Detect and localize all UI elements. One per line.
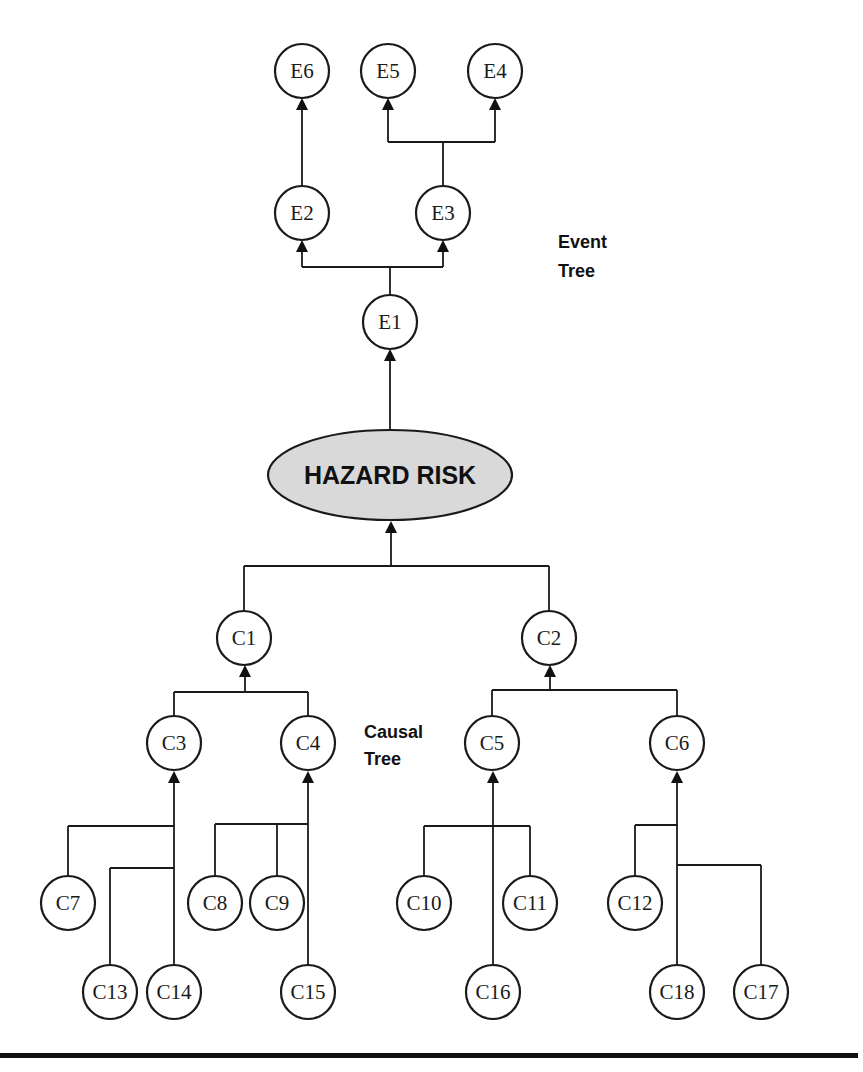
- arrow-head-icon: [487, 771, 499, 783]
- hazard-risk-diagram: HAZARD RISK E6 E5 E4 E2 E3 E1 C1 C2 C3 C…: [0, 0, 863, 1072]
- event-tree-label-line2: Tree: [558, 261, 595, 281]
- node-label: C15: [290, 980, 325, 1004]
- node-label: C9: [265, 891, 290, 915]
- node-label: E6: [290, 59, 313, 83]
- node-c4: C4: [281, 716, 335, 770]
- arrow-head-icon: [382, 98, 394, 110]
- node-c14: C14: [147, 965, 201, 1019]
- event-tree-label-line1: Event: [558, 232, 607, 252]
- node-e2: E2: [275, 186, 329, 240]
- node-label: C4: [296, 731, 321, 755]
- node-label: C1: [232, 626, 257, 650]
- node-label: C16: [475, 980, 510, 1004]
- node-c12: C12: [608, 876, 662, 930]
- event-tree-label: Event Tree: [558, 232, 607, 281]
- node-label: C3: [162, 731, 187, 755]
- arrow-head-icon: [437, 240, 449, 252]
- bottom-rule-divider: [0, 1053, 858, 1058]
- node-label: C14: [156, 980, 192, 1004]
- node-e4: E4: [468, 44, 522, 98]
- node-label: C2: [537, 626, 562, 650]
- node-label: C8: [203, 891, 228, 915]
- node-c18: C18: [650, 965, 704, 1019]
- node-c1: C1: [217, 611, 271, 665]
- node-label: E2: [290, 201, 313, 225]
- node-label: E4: [483, 59, 507, 83]
- node-c7: C7: [41, 876, 95, 930]
- node-label: C5: [480, 731, 505, 755]
- arrow-head-icon: [239, 665, 251, 677]
- node-label: E3: [431, 201, 454, 225]
- arrow-head-icon: [168, 771, 180, 783]
- node-c15: C15: [281, 965, 335, 1019]
- arrow-head-icon: [385, 521, 397, 533]
- event-tree-edges: [296, 98, 501, 430]
- node-e5: E5: [361, 44, 415, 98]
- causal-tree-label-line2: Tree: [364, 749, 401, 769]
- node-c2: C2: [522, 611, 576, 665]
- node-c17: C17: [734, 965, 788, 1019]
- hazard-label: HAZARD RISK: [304, 461, 476, 489]
- node-c10: C10: [397, 876, 451, 930]
- arrow-head-icon: [296, 240, 308, 252]
- node-label: C18: [659, 980, 694, 1004]
- node-label: E5: [376, 59, 399, 83]
- arrow-head-icon: [489, 98, 501, 110]
- event-nodes: E6 E5 E4 E2 E3 E1: [275, 44, 522, 349]
- node-label: C13: [92, 980, 127, 1004]
- causal-nodes: C1 C2 C3 C4 C5 C6 C7 C8 C9 C10 C11 C12 C…: [41, 611, 788, 1019]
- node-label: C17: [743, 980, 778, 1004]
- arrow-head-icon: [671, 771, 683, 783]
- node-e6: E6: [275, 44, 329, 98]
- node-c6: C6: [650, 716, 704, 770]
- node-e3: E3: [416, 186, 470, 240]
- arrow-head-icon: [384, 349, 396, 361]
- causal-tree-label: Causal Tree: [364, 722, 423, 769]
- arrow-head-icon: [544, 665, 556, 677]
- node-c9: C9: [250, 876, 304, 930]
- node-e1: E1: [363, 295, 417, 349]
- node-c8: C8: [188, 876, 242, 930]
- node-c16: C16: [466, 965, 520, 1019]
- node-c13: C13: [83, 965, 137, 1019]
- arrow-head-icon: [302, 771, 314, 783]
- node-label: C11: [513, 891, 547, 915]
- arrow-head-icon: [296, 98, 308, 110]
- node-c11: C11: [503, 876, 557, 930]
- node-label: C10: [406, 891, 441, 915]
- node-label: C7: [56, 891, 81, 915]
- node-c3: C3: [147, 716, 201, 770]
- node-label: C12: [617, 891, 652, 915]
- node-c5: C5: [465, 716, 519, 770]
- causal-tree-label-line1: Causal: [364, 722, 423, 742]
- node-label: E1: [378, 310, 401, 334]
- node-label: C6: [665, 731, 690, 755]
- hazard-risk-node: HAZARD RISK: [268, 430, 512, 520]
